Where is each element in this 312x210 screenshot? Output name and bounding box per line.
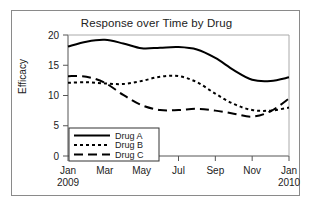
- plot-area: 20 15 10 5 0 Jan Mar May Jul Sep Nov Jan…: [12, 11, 301, 197]
- x-tick-sublabel-2010: 2010: [278, 177, 301, 188]
- x-tick-label-jan-2010: Jan: [281, 165, 297, 176]
- y-tick-label-20: 20: [48, 30, 60, 41]
- chart-legend[interactable]: Drug A Drug B Drug C: [69, 128, 159, 161]
- x-tick-sublabel-2009: 2009: [57, 177, 80, 188]
- series-line-drug-c: [68, 76, 289, 117]
- figure-panel: Response over Time by Drug Efficacy 20 1…: [11, 10, 300, 196]
- y-tick-label-10: 10: [48, 90, 60, 101]
- legend-label-drug-a: Drug A: [115, 131, 143, 141]
- y-tick-label-5: 5: [53, 120, 59, 131]
- legend-label-drug-b: Drug B: [115, 140, 143, 150]
- legend-label-drug-c: Drug C: [115, 150, 144, 160]
- x-tick-label-may: May: [132, 165, 151, 176]
- x-tick-label-sep: Sep: [206, 165, 224, 176]
- y-tick-label-0: 0: [53, 151, 59, 162]
- series-line-drug-a: [68, 40, 289, 81]
- x-tick-label-jan-2009: Jan: [60, 165, 76, 176]
- x-tick-label-nov: Nov: [243, 165, 261, 176]
- y-tick-marks: [63, 35, 68, 156]
- y-tick-label-15: 15: [48, 60, 60, 71]
- x-tick-label-mar: Mar: [96, 165, 114, 176]
- x-tick-label-jul: Jul: [172, 165, 185, 176]
